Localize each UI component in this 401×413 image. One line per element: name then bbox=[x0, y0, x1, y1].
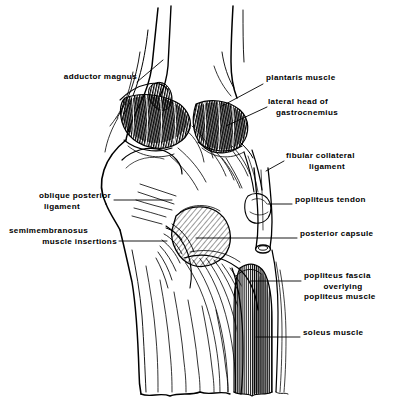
label-line: oblique posterior bbox=[9, 191, 111, 202]
label-soleus-muscle: soleus muscle bbox=[303, 328, 363, 339]
label-line: fibular collateral bbox=[286, 151, 392, 162]
soleus-muscle bbox=[230, 258, 278, 398]
label-line: popliteus muscle bbox=[304, 292, 398, 303]
label-line: posterior capsule bbox=[300, 229, 373, 240]
label-line: ligament bbox=[286, 162, 392, 173]
label-semimembranosus-muscle-insertions: semimembranosus muscle insertions bbox=[9, 226, 117, 247]
leader-fibular-collateral-ligament bbox=[266, 161, 284, 171]
label-line: soleus muscle bbox=[303, 328, 363, 339]
anatomical-illustration: adductor magnus plantaris muscle lateral… bbox=[0, 0, 401, 413]
label-line: adductor magnus bbox=[31, 72, 137, 83]
leader-plantaris-muscle bbox=[222, 84, 263, 106]
label-fibular-collateral-ligament: fibular collateral ligament bbox=[286, 151, 392, 172]
label-line: muscle insertions bbox=[9, 237, 117, 248]
oblique-posterior-ligament-fibers bbox=[132, 184, 176, 224]
label-posterior-capsule: posterior capsule bbox=[300, 229, 373, 240]
label-lateral-head-of-gastrocnemius: lateral head of gastrocnemius bbox=[268, 97, 364, 118]
medial-gastrocnemius-origin bbox=[118, 90, 196, 157]
label-oblique-posterior-ligament: oblique posterior ligament bbox=[9, 191, 111, 212]
label-line: ligament bbox=[9, 202, 111, 213]
label-adductor-magnus: adductor magnus bbox=[31, 72, 137, 83]
drawing-ink bbox=[102, 6, 301, 398]
label-line: semimembranosus bbox=[9, 226, 117, 237]
label-line: popliteus tendon bbox=[295, 195, 366, 206]
label-line: popliteus fascia bbox=[304, 271, 398, 282]
popliteus-tendon bbox=[254, 168, 272, 253]
label-popliteus-fascia-overlying-popliteus-muscle: popliteus fascia overlying popliteus mus… bbox=[304, 271, 398, 303]
label-plantaris-muscle: plantaris muscle bbox=[266, 73, 335, 84]
label-popliteus-tendon: popliteus tendon bbox=[295, 195, 366, 206]
label-line: gastrocnemius bbox=[268, 108, 364, 119]
label-line: plantaris muscle bbox=[266, 73, 335, 84]
label-line: overlying bbox=[304, 282, 398, 293]
lateral-leg-border bbox=[272, 250, 288, 394]
label-line: lateral head of bbox=[268, 97, 364, 108]
